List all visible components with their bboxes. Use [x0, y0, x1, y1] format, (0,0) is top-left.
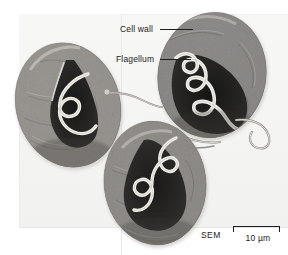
scale-bar-group: SEM 10 µm: [201, 224, 281, 250]
imaging-technique-label: SEM: [201, 230, 221, 240]
annotation-leader-cell-wall: [160, 29, 193, 30]
scale-bar-value: 10 µm: [235, 233, 281, 243]
scale-bar-bracket: [233, 226, 280, 232]
annotation-label-flagellum: Flagellum: [116, 54, 154, 64]
annotation-label-cell-wall: Cell wall: [120, 24, 153, 34]
sem-micrograph-figure: Cell wall Flagellum SEM 10 µm: [0, 0, 288, 255]
micrograph-specimens: [0, 0, 288, 255]
annotation-leader-flagellum: [160, 59, 191, 60]
